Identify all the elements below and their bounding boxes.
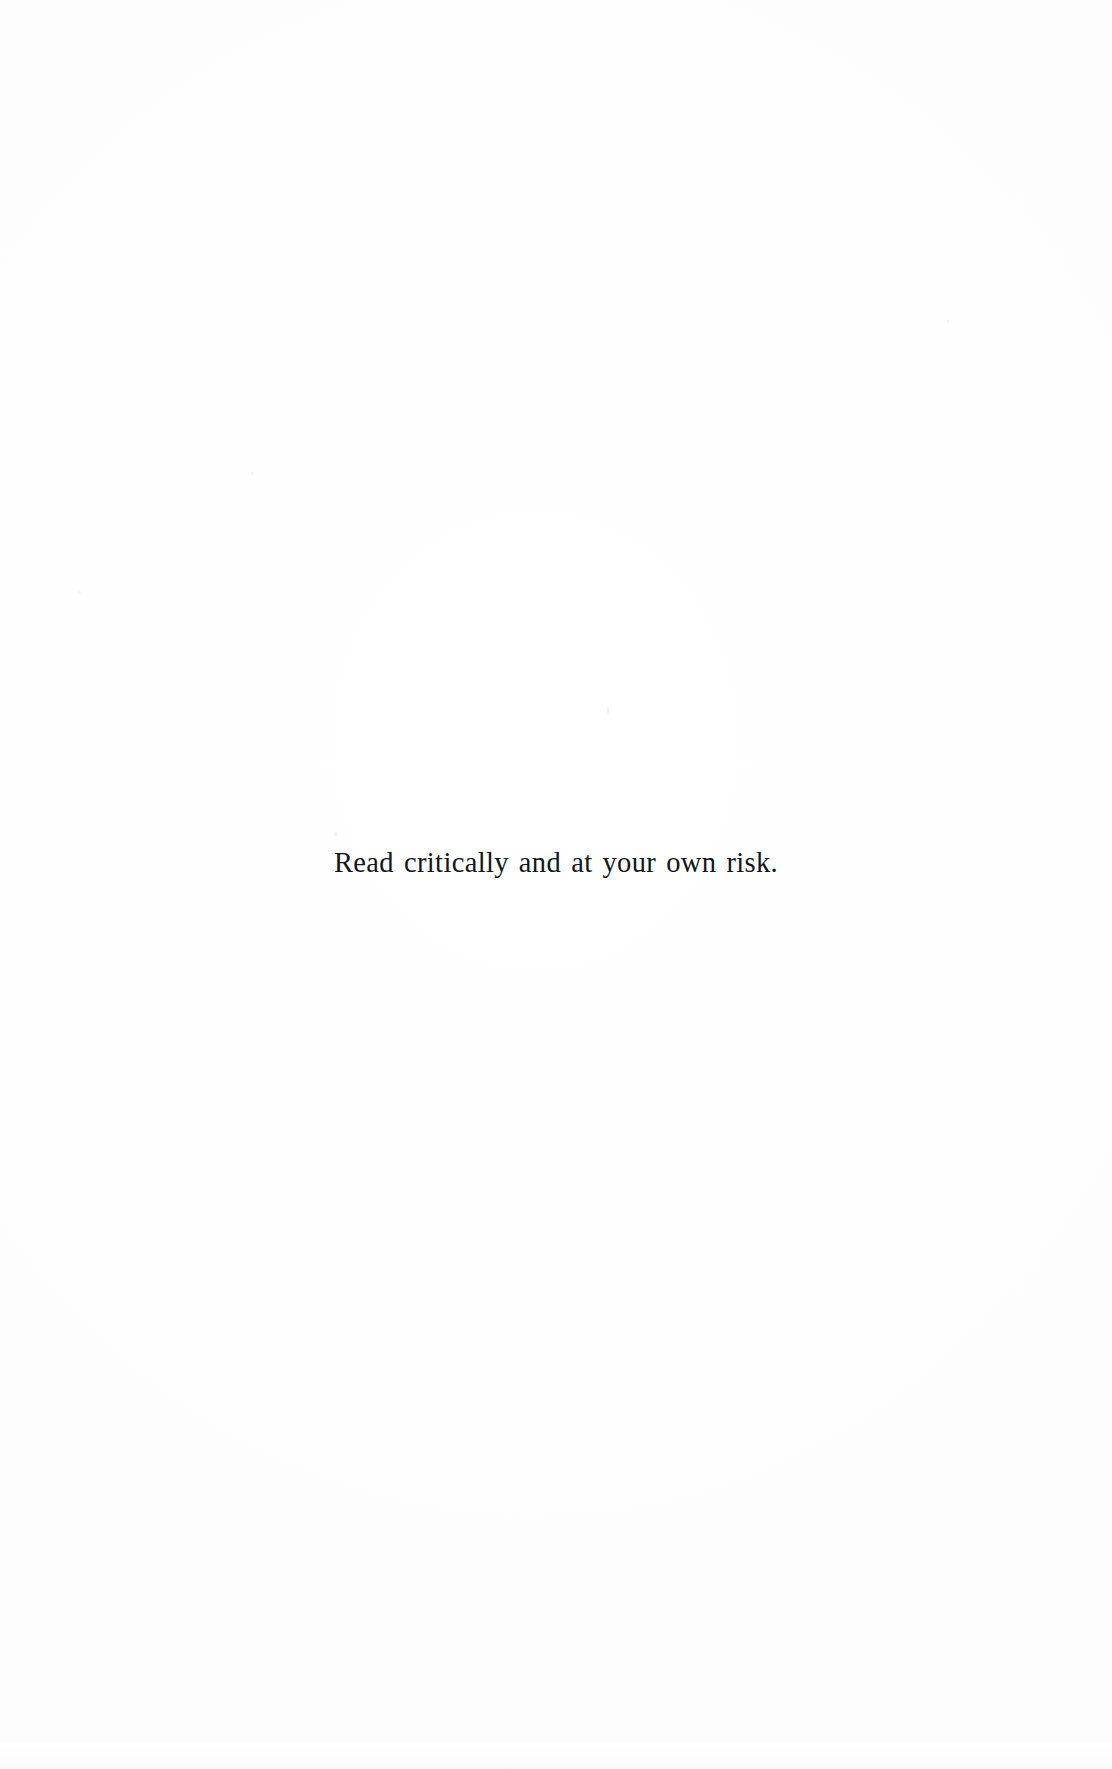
scan-speck-icon	[334, 832, 337, 836]
scan-speck-icon	[607, 707, 609, 714]
page-text-block: Read critically and at your own risk.	[0, 846, 1112, 880]
body-line: Read critically and at your own risk.	[334, 846, 778, 880]
scan-speck-icon	[251, 472, 254, 475]
bottom-edge-smudge	[0, 1743, 1112, 1769]
scanned-page: Read critically and at your own risk.	[0, 0, 1112, 1769]
paper-texture	[0, 0, 1112, 1769]
scan-speck-icon	[947, 320, 949, 323]
scan-speck-icon	[78, 591, 81, 594]
